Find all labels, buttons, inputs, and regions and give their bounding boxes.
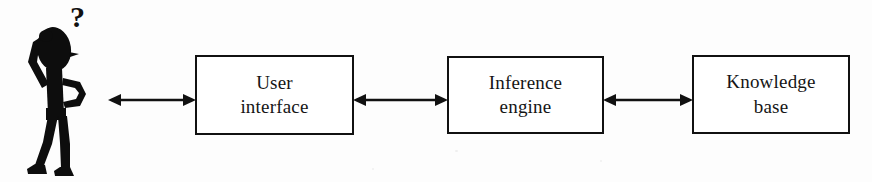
connector-user-interface-to-inference-engine <box>353 90 448 110</box>
scan-speckle <box>455 150 458 152</box>
node-inference-engine[interactable]: Inference engine <box>447 56 604 134</box>
connector-user-to-user-interface <box>108 90 196 110</box>
scan-speckle <box>600 160 602 162</box>
node-knowledge-base-label: Knowledge base <box>720 70 821 119</box>
node-inference-engine-label: Inference engine <box>483 71 569 120</box>
connector-inference-engine-to-knowledge-base <box>603 90 693 110</box>
question-mark-icon: ? <box>70 2 85 32</box>
node-knowledge-base[interactable]: Knowledge base <box>692 55 850 134</box>
node-user-interface-label: User interface <box>234 71 314 120</box>
node-user-interface[interactable]: User interface <box>195 55 354 135</box>
expert-system-diagram: ? <box>0 0 872 182</box>
user-actor: ? <box>8 2 112 182</box>
scan-speckle <box>372 168 374 170</box>
puzzled-stick-figure-icon <box>8 2 112 182</box>
